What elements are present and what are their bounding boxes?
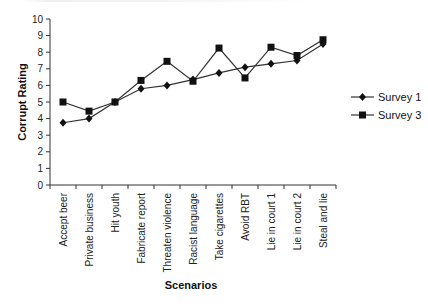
diamond-marker-icon [138, 85, 145, 93]
square-marker-icon [86, 108, 93, 115]
series-survey-3 [60, 36, 327, 114]
x-axis-title: Scenarios [165, 279, 218, 291]
diamond-marker-icon [268, 60, 275, 68]
line-chart: 012345678910 Accept beerPrivate business… [0, 0, 428, 304]
y-tick-label: 6 [37, 80, 43, 91]
square-marker-icon [138, 77, 145, 84]
y-tick-label: 3 [37, 130, 43, 141]
square-marker-icon [112, 99, 119, 106]
y-tick-label: 5 [37, 97, 43, 108]
y-axis-title: Corrupt Rating [16, 63, 28, 141]
diamond-marker-icon [60, 119, 67, 127]
square-marker-icon [359, 112, 366, 119]
diamond-marker-icon [359, 93, 366, 101]
square-marker-icon [60, 99, 67, 106]
diamond-marker-icon [242, 63, 249, 71]
y-tick-label: 2 [37, 146, 43, 157]
x-tick-label: Lie in court 1 [266, 193, 277, 251]
y-tick-label: 7 [37, 63, 43, 74]
series-group [60, 36, 327, 127]
diamond-marker-icon [216, 69, 223, 77]
x-tick-label: Threaten violence [162, 193, 173, 273]
square-marker-icon [294, 52, 301, 59]
legend: Survey 1Survey 3 [351, 91, 421, 121]
x-tick-label: Lie in court 2 [292, 193, 303, 251]
square-marker-icon [164, 58, 171, 65]
x-tick-label: Accept beer [58, 192, 69, 246]
y-tick-label: 9 [37, 30, 43, 41]
legend-item: Survey 1 [351, 91, 421, 103]
legend-label: Survey 1 [378, 91, 421, 103]
legend-item: Survey 3 [351, 109, 421, 121]
x-tick-label: Fabricate report [136, 193, 147, 264]
series-line [63, 40, 323, 111]
diamond-marker-icon [164, 81, 171, 89]
x-tick-label: Take cigarettes [214, 193, 225, 260]
x-tick-label: Steal and lie [318, 193, 329, 248]
square-marker-icon [190, 78, 197, 85]
x-tick-label: Private business [84, 193, 95, 266]
legend-label: Survey 3 [378, 109, 421, 121]
y-tick-label: 8 [37, 47, 43, 58]
y-tick-label: 4 [37, 113, 43, 124]
y-tick-label: 10 [32, 14, 44, 25]
y-axis: 012345678910 [32, 14, 50, 191]
y-tick-label: 0 [37, 180, 43, 191]
square-marker-icon [216, 45, 223, 52]
x-axis: Accept beerPrivate businessHit youthFabr… [50, 185, 336, 273]
square-marker-icon [242, 74, 249, 81]
x-tick-label: Racist language [188, 193, 199, 265]
diamond-marker-icon [86, 115, 93, 123]
y-tick-label: 1 [37, 163, 43, 174]
x-tick-label: Hit youth [110, 193, 121, 232]
square-marker-icon [320, 36, 327, 43]
x-tick-label: Avoid RBT [240, 193, 251, 241]
square-marker-icon [268, 44, 275, 51]
